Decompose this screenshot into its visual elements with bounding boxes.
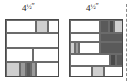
- right-quilt-block-row-3-patch-white: [79, 42, 100, 54]
- figure-canvas: 4½″ 4½″: [0, 0, 132, 81]
- left-block-size-label: 4½″: [22, 2, 35, 13]
- left-quilt-block-row-4-patch-white: [36, 62, 59, 77]
- right-quilt-block-row-2-patch-dark: [100, 33, 123, 42]
- left-quilt-block-row-1-patch-white-2: [48, 20, 59, 33]
- left-quilt-block: [5, 19, 59, 77]
- right-quilt-block-row-4-patch-white-wide: [70, 54, 110, 66]
- left-label-unit: ″: [31, 2, 34, 11]
- right-quilt-block: [69, 19, 123, 77]
- right-label-unit: ″: [95, 2, 98, 11]
- right-quilt-block-row-5-patch-white-2: [104, 66, 123, 77]
- left-quilt-block-row-3-patch-white-a: [6, 48, 33, 62]
- left-quilt-block-row-4-patch-light: [6, 62, 20, 77]
- cutting-guide-dashed-line: [126, 4, 127, 81]
- right-quilt-block-row-1-patch-dark: [100, 20, 109, 33]
- right-quilt-block-row-3-patch-dark: [100, 42, 123, 54]
- left-quilt-block-row-2-patch-white-wide: [6, 33, 59, 48]
- right-quilt-block-row-1-patch-light: [114, 20, 123, 33]
- right-quilt-block-row-5-patch-light: [92, 66, 104, 77]
- right-quilt-block-row-5-patch-white: [70, 66, 92, 77]
- left-quilt-block-row-3-patch-white-b: [33, 48, 59, 62]
- left-quilt-block-row-1-patch-white: [6, 20, 36, 33]
- right-block-size-label: 4½″: [86, 2, 99, 13]
- right-quilt-block-row-2-patch-white: [70, 33, 100, 42]
- right-quilt-block-row-1-patch-white: [70, 20, 100, 33]
- left-quilt-block-row-1-patch-light: [36, 20, 48, 33]
- right-quilt-block-row-4-patch-dark: [116, 54, 123, 66]
